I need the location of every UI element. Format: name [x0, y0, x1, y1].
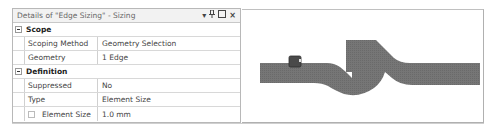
row-gutter [13, 107, 25, 121]
row-gutter [13, 37, 25, 50]
pin-icon[interactable] [209, 10, 215, 22]
group-label-scope: Scope [24, 23, 240, 36]
graphics-viewport[interactable] [242, 9, 484, 123]
dropdown-icon[interactable]: ▾ [202, 10, 206, 22]
property-value-type[interactable]: Element Size [98, 93, 240, 106]
selected-edge-highlight [299, 59, 301, 62]
property-value-suppressed[interactable]: No [98, 79, 240, 92]
title-icons: ▾ × [202, 10, 236, 22]
maximize-icon[interactable] [218, 10, 226, 22]
property-value-element-size[interactable]: 1.0 mm [98, 107, 240, 121]
row-gutter [13, 79, 25, 92]
parameter-checkbox[interactable] [28, 111, 35, 118]
details-panel-title: Details of "Edge Sizing" - Sizing [17, 11, 135, 20]
property-row-geometry[interactable]: Geometry 1 Edge [13, 51, 240, 65]
property-row-type[interactable]: Type Element Size [13, 93, 240, 107]
scope-toggle-cell [13, 23, 24, 36]
row-gutter [13, 93, 25, 106]
property-value-geometry[interactable]: 1 Edge [98, 51, 240, 64]
mesh-geometry [242, 10, 483, 122]
property-name: Suppressed [25, 79, 98, 92]
property-row-element-size[interactable]: Element Size 1.0 mm [13, 107, 240, 121]
row-gutter [13, 51, 25, 64]
property-name: Element Size [42, 110, 91, 119]
close-icon[interactable]: × [229, 10, 236, 22]
group-scope: Scope [13, 23, 240, 37]
details-panel-titlebar: Details of "Edge Sizing" - Sizing ▾ × [13, 9, 240, 23]
mesh-body [260, 40, 480, 95]
property-name: Type [25, 93, 98, 106]
property-row-scoping-method[interactable]: Scoping Method Geometry Selection [13, 37, 240, 51]
collapse-icon[interactable] [15, 68, 22, 75]
property-value-scoping-method[interactable]: Geometry Selection [98, 37, 240, 50]
collapse-icon[interactable] [15, 26, 22, 33]
property-name: Scoping Method [25, 37, 98, 50]
property-name-cell: Element Size [25, 107, 98, 121]
property-name: Geometry [25, 51, 98, 64]
definition-toggle-cell [13, 65, 24, 78]
details-panel: Details of "Edge Sizing" - Sizing ▾ × Sc… [12, 8, 241, 123]
property-row-suppressed[interactable]: Suppressed No [13, 79, 240, 93]
bottom-divider [12, 123, 484, 124]
group-label-definition: Definition [24, 65, 240, 78]
group-definition: Definition [13, 65, 240, 79]
